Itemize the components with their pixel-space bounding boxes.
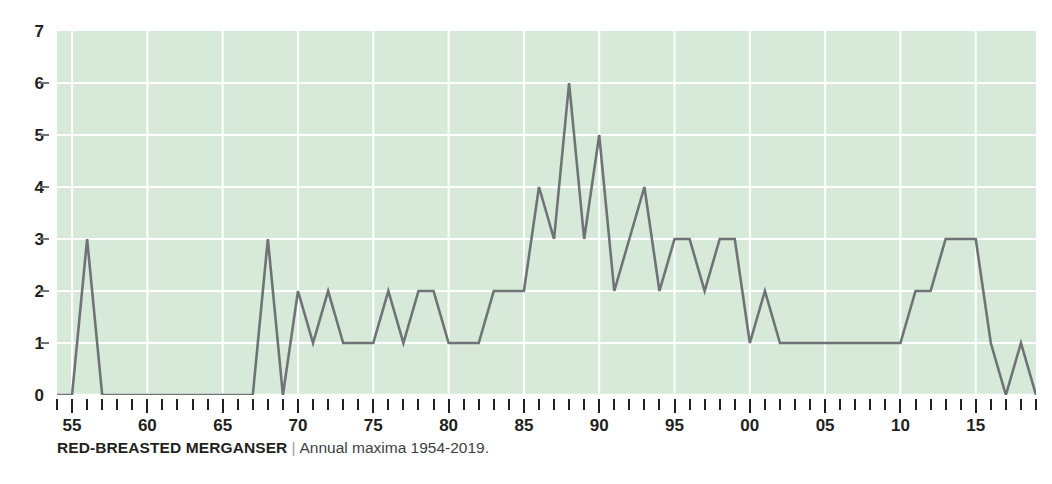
x-axis-label: 05 (816, 417, 835, 434)
x-axis-label: 75 (364, 417, 383, 434)
x-axis-tick-minor (327, 399, 329, 410)
plot-svg (57, 31, 1036, 395)
x-axis-tick-minor (131, 399, 133, 410)
x-axis-tick-minor (658, 399, 660, 410)
x-axis-tick-minor (1020, 399, 1022, 410)
x-axis-tick-major (824, 399, 826, 413)
y-axis-tick (40, 134, 49, 136)
plot-area (57, 31, 1036, 395)
x-axis-tick-minor (643, 399, 645, 410)
x-axis-label: 85 (514, 417, 533, 434)
x-axis-tick-minor (312, 399, 314, 410)
caption-subtitle: Annual maxima 1954-2019. (299, 439, 489, 456)
x-axis-tick-minor (161, 399, 163, 410)
x-axis-label: 65 (213, 417, 232, 434)
x-axis-tick-major (297, 399, 299, 413)
x-axis-tick-minor (628, 399, 630, 410)
x-axis-tick-minor (538, 399, 540, 410)
caption-species: RED-BREASTED MERGANSER (57, 439, 287, 456)
x-axis-tick-minor (794, 399, 796, 410)
x-axis-tick-minor (478, 399, 480, 410)
x-axis-tick-minor (583, 399, 585, 410)
x-axis-tick-minor (734, 399, 736, 410)
x-axis-tick-minor (493, 399, 495, 410)
x-axis-tick-minor (764, 399, 766, 410)
x-axis-tick-major (146, 399, 148, 413)
y-axis-tick (40, 290, 49, 292)
caption-separator: | (287, 439, 299, 456)
x-axis-tick-major (899, 399, 901, 413)
x-axis-label: 00 (740, 417, 759, 434)
x-axis-tick-minor (342, 399, 344, 410)
x-axis-tick-minor (116, 399, 118, 410)
x-axis-tick-minor (945, 399, 947, 410)
x-axis-tick-major (372, 399, 374, 413)
x-axis-tick-major (71, 399, 73, 413)
x-axis-tick-minor (809, 399, 811, 410)
y-axis-label: 7 (14, 23, 44, 40)
x-axis-tick-minor (387, 399, 389, 410)
y-axis: 01234567 (0, 0, 44, 484)
x-axis-tick-minor (176, 399, 178, 410)
y-axis-tick (40, 186, 49, 188)
x-axis-tick-minor (915, 399, 917, 410)
x-axis-tick-minor (839, 399, 841, 410)
x-axis-tick-minor (990, 399, 992, 410)
x-axis-tick-minor (86, 399, 88, 410)
x-axis-label: 95 (665, 417, 684, 434)
x-axis-label: 15 (966, 417, 985, 434)
x-axis-tick-major (975, 399, 977, 413)
x-axis-tick-minor (869, 399, 871, 410)
y-axis-label: 0 (14, 387, 44, 404)
x-axis-tick-minor (252, 399, 254, 410)
x-axis-tick-minor (779, 399, 781, 410)
x-axis-label: 90 (590, 417, 609, 434)
x-axis-tick-major (674, 399, 676, 413)
x-axis-tick-minor (402, 399, 404, 410)
x-axis-tick-minor (854, 399, 856, 410)
x-axis-tick-minor (553, 399, 555, 410)
x-axis-tick-minor (930, 399, 932, 410)
x-axis-tick-minor (568, 399, 570, 410)
x-axis-tick-minor (237, 399, 239, 410)
x-axis-tick-minor (357, 399, 359, 410)
x-axis-tick-minor (417, 399, 419, 410)
x-axis-tick-major (448, 399, 450, 413)
x-axis-tick-major (222, 399, 224, 413)
x-axis-label: 80 (439, 417, 458, 434)
x-axis-tick-minor (719, 399, 721, 410)
x-axis-tick-major (749, 399, 751, 413)
x-axis-tick-minor (207, 399, 209, 410)
x-axis-tick-minor (463, 399, 465, 410)
x-axis-tick-minor (433, 399, 435, 410)
x-axis-label: 70 (289, 417, 308, 434)
x-axis-tick-minor (704, 399, 706, 410)
x-axis-label: 60 (138, 417, 157, 434)
x-axis-tick-minor (1035, 399, 1037, 410)
y-axis-tick (40, 342, 49, 344)
y-axis-tick (40, 82, 49, 84)
x-axis-tick-minor (960, 399, 962, 410)
x-axis-tick-minor (192, 399, 194, 410)
x-axis-tick-minor (267, 399, 269, 410)
y-axis-tick (40, 238, 49, 240)
x-axis-tick-minor (282, 399, 284, 410)
x-axis-label: 10 (891, 417, 910, 434)
caption: RED-BREASTED MERGANSER|Annual maxima 195… (57, 439, 489, 458)
x-axis-tick-minor (101, 399, 103, 410)
x-axis-tick-minor (613, 399, 615, 410)
x-axis-tick-minor (1005, 399, 1007, 410)
x-axis-tick-minor (689, 399, 691, 410)
x-axis-tick-minor (508, 399, 510, 410)
x-axis-tick-minor (884, 399, 886, 410)
chart-figure: 01234567 55606570758085909500051015 RED-… (0, 0, 1052, 484)
x-axis-tick-minor (56, 399, 58, 410)
x-axis-tick-major (598, 399, 600, 413)
x-axis-label: 55 (63, 417, 82, 434)
x-axis-tick-major (523, 399, 525, 413)
